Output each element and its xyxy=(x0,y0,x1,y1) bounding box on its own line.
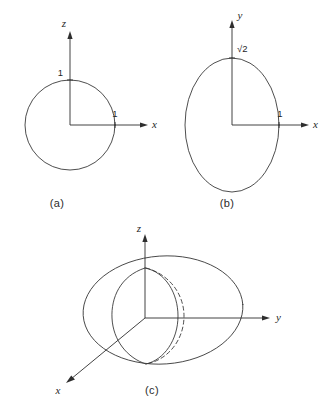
panel-c-caption: (c) xyxy=(145,384,159,396)
panel-a-x-axis-label: x xyxy=(151,118,157,130)
panel-b-caption: (b) xyxy=(220,197,235,209)
panel-b-x-axis-label: x xyxy=(312,118,318,130)
panel-b-y-tick-label: √2 xyxy=(237,43,248,54)
figure-svg: z x 1 1 (a) y x √2 1 (b) xyxy=(0,0,332,405)
panel-b: y x √2 1 (b) xyxy=(185,9,318,209)
panel-a-z-axis-label: z xyxy=(61,17,67,29)
panel-a-x-arrowhead xyxy=(140,122,148,127)
panel-a-z-tick-label: 1 xyxy=(58,67,63,78)
panel-a-caption: (a) xyxy=(50,197,65,209)
panel-c-meridian-front-left xyxy=(112,268,146,364)
panel-a-x-tick-label: 1 xyxy=(112,108,117,119)
panel-c-x-axis xyxy=(71,318,145,379)
panel-c-z-axis-label: z xyxy=(136,222,142,234)
panel-c-y-axis-label: y xyxy=(275,311,281,323)
panel-c-meridian-front-right xyxy=(145,268,178,364)
panel-b-x-arrowhead xyxy=(301,122,309,127)
panel-c-y-arrowhead xyxy=(262,315,270,320)
panel-c-z-arrowhead xyxy=(142,234,147,242)
panel-b-y-axis-label: y xyxy=(237,9,243,21)
figure-root: z x 1 1 (a) y x √2 1 (b) xyxy=(0,0,332,405)
panel-a-z-arrowhead xyxy=(67,31,72,39)
panel-a: z x 1 1 (a) xyxy=(25,17,157,209)
panel-c-x-axis-label: x xyxy=(55,384,61,396)
panel-c: z y x (c) xyxy=(55,222,281,396)
panel-b-x-tick-label: 1 xyxy=(277,108,282,119)
panel-b-y-arrowhead xyxy=(229,20,234,28)
